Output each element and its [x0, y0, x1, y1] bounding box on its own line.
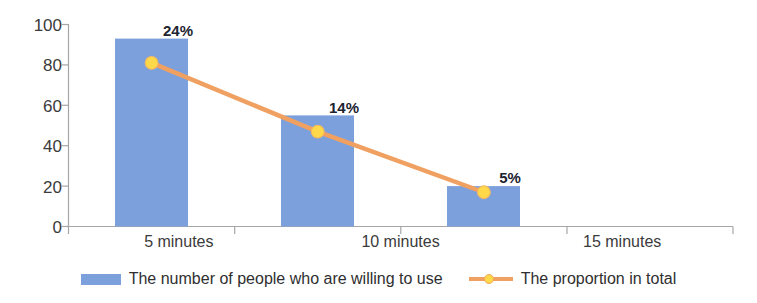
plot-area: 100 80 60 40 20 0: [0, 0, 757, 240]
combo-bar-line-chart: 100 80 60 40 20 0: [0, 0, 757, 303]
data-label-15-minutes: 5%: [499, 170, 521, 185]
legend-item-bar-series[interactable]: The number of people who are willing to …: [81, 271, 443, 287]
x-tick-label-5-minutes: 5 minutes: [68, 232, 290, 260]
legend-label-bar-series: The number of people who are willing to …: [129, 271, 443, 287]
line-marker-15-minutes: [478, 186, 491, 199]
legend-item-line-series[interactable]: The proportion in total: [469, 271, 677, 287]
x-tick-label-15-minutes: 15 minutes: [511, 232, 733, 260]
chart-legend: The number of people who are willing to …: [0, 264, 757, 294]
x-tick-label-10-minutes: 10 minutes: [290, 232, 512, 260]
legend-bar-swatch-icon: [81, 274, 121, 285]
data-label-5-minutes: 24%: [163, 23, 193, 38]
legend-label-line-series: The proportion in total: [521, 271, 677, 287]
x-axis-tick-labels: 5 minutes 10 minutes 15 minutes: [68, 232, 733, 260]
legend-line-swatch-icon: [469, 272, 513, 286]
line-marker-10-minutes: [311, 125, 324, 138]
y-axis-ticks: [61, 25, 68, 227]
chart-canvas: [0, 0, 757, 240]
data-label-10-minutes: 14%: [329, 100, 359, 115]
legend-line-marker-icon: [484, 274, 494, 284]
line-marker-5-minutes: [145, 57, 158, 70]
